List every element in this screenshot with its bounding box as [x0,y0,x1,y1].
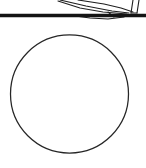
figure-canvas [0,0,146,168]
figure-root: Cropped technical line drawing above a c… [0,0,146,168]
figure-background [0,0,146,168]
